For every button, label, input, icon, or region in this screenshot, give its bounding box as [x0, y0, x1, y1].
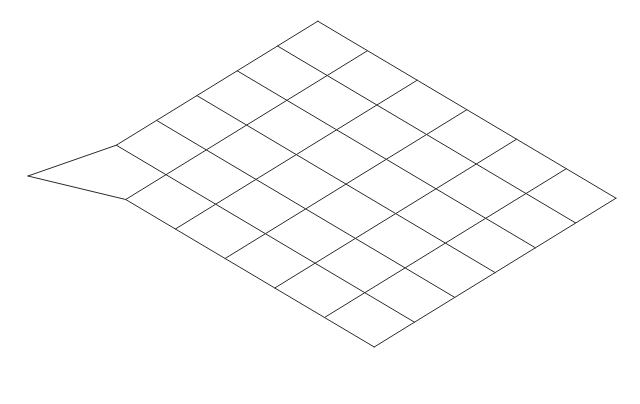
- figure-background: [0, 0, 640, 404]
- figure-root: [0, 0, 640, 404]
- mesh-wireframe-canvas: [0, 0, 640, 404]
